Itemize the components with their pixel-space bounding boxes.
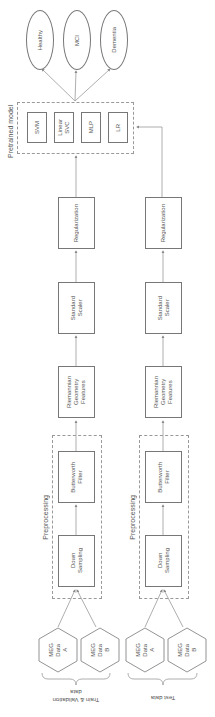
train-meg-data-a-label: MEG Data A [48,643,69,657]
train-regularization-label: Regularization [73,204,80,242]
model-lr: LR [108,112,128,143]
test-regularization-label: Regularization [160,204,167,242]
test-meg-data-a: MEG Data A [125,627,165,673]
test-down-sampling-label: Down Sampling [157,548,171,573]
test-standard-scaler: Standard Scaler [145,282,182,334]
train-down-sampling: Down Sampling [58,535,95,587]
output-healthy-label: Healthy [37,30,44,50]
test-riemannian-features: Riemannian Geometry Features [145,366,182,418]
train-standard-scaler: Standard Scaler [58,282,95,334]
test-meg-data-b: MEG Data B [167,627,207,673]
test-butterworth-filter-label: Butterworth Filter [157,462,171,493]
train-riemannian-features-label: Riemannian Geometry Features [66,376,87,408]
model-lr-label: LR [115,124,122,132]
output-dementia-label: Dementia [111,27,118,53]
train-regularization: Regularization [58,197,95,249]
test-preprocessing-title: Preprocessing [129,495,136,540]
test-meg-data-a-label: MEG Data A [135,643,156,657]
test-down-sampling: Down Sampling [145,535,182,587]
model-mlp-label: MLP [88,121,95,133]
test-butterworth-filter: Butterworth Filter [145,451,182,503]
test-data-label: Test data [128,694,198,702]
train-riemannian-features: Riemannian Geometry Features [58,366,95,418]
train-preprocessing-title: Preprocessing [42,495,49,540]
train-meg-data-b-label: MEG Data B [90,643,111,657]
test-riemannian-features-label: Riemannian Geometry Features [153,376,174,408]
test-standard-scaler-label: Standard Scaler [157,296,171,320]
train-standard-scaler-label: Standard Scaler [70,296,84,320]
output-dementia: Dementia [100,10,128,70]
pretrained-model-title: Pretrained model [7,90,14,158]
model-mlp: MLP [81,112,101,143]
train-butterworth-filter-label: Butterworth Filter [70,462,84,493]
test-meg-data-b-label: MEG Data B [177,643,198,657]
output-mci: MCI [63,10,91,70]
pipeline-diagram: Healthy MCI Dementia Pretrained model SV… [0,0,215,717]
train-butterworth-filter: Butterworth Filter [58,451,95,503]
model-svm-label: SVM [34,121,41,134]
train-meg-data-a: MEG Data A [38,627,78,673]
model-linear-svc: Linear SVC [54,112,74,143]
train-down-sampling-label: Down Sampling [70,548,84,573]
test-regularization: Regularization [145,197,182,249]
output-healthy: Healthy [26,10,54,70]
output-mci-label: MCI [74,35,81,46]
train-meg-data-b: MEG Data B [80,627,120,673]
model-svm: SVM [27,112,47,143]
model-linear-svc-label: Linear SVC [57,119,71,136]
train-data-label: Train & Validation data [40,688,112,704]
